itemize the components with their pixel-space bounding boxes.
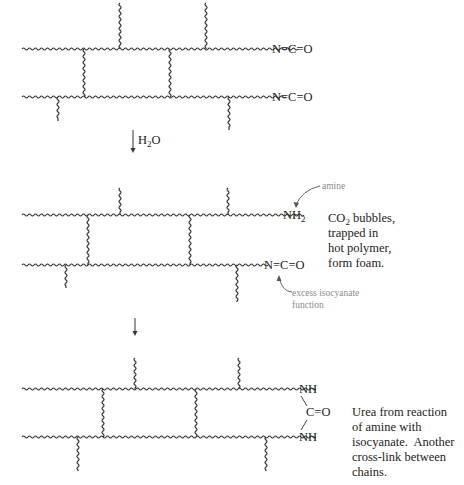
isocyanate-group: N=C=O [272,90,313,104]
note-line: of amine with [352,420,422,434]
panel-2-polymer-network: NH2 N=C=O amine excess isocyanate functi… [22,181,395,310]
polyurethane-foam-diagram: N=C=O N=C=O H2O NH2 N=C=O amine excess i… [0,0,464,485]
note-line: Urea from reaction [352,405,448,419]
chain-branch [65,265,67,288]
reaction-arrow-water: H2O [131,130,161,153]
chain-branch [77,437,79,471]
cross-link [169,49,171,97]
arrowhead-icon [133,331,138,336]
chain-branch [265,437,267,471]
arrowhead-icon [131,148,136,153]
polymer-chain [22,48,298,50]
chain-branch [119,3,121,49]
reagent-label: H2O [138,133,161,149]
note-line: hot polymer, [328,241,391,255]
amine-label: amine [322,181,345,191]
urea-note: Urea from reaction of amine with isocyan… [352,405,455,479]
chain-branch [227,188,229,215]
carbonyl-group: C=O [306,405,330,419]
chain-branch [134,358,136,389]
polymer-chain [22,96,286,98]
chain-branch [57,97,59,121]
note-line: form foam. [328,256,384,270]
polymer-chain [22,214,304,216]
note-line: CO2 bubbles, [328,211,395,227]
amine-group: NH2 [283,208,306,224]
cross-link [189,215,191,265]
chain-branch [236,265,238,302]
amine-pointer-arrow-icon [296,186,320,205]
nh-group: NH [299,382,317,396]
chain-branch [238,358,240,389]
isocyanate-group: N=C=O [272,42,313,56]
chain-branch [205,3,207,49]
chain-branch [228,97,230,130]
note-line: chains. [352,465,387,479]
polymer-chain [22,264,268,266]
cross-link [102,389,104,437]
chain-branch [119,188,121,215]
polymer-chain [22,388,316,390]
reaction-arrow [133,318,138,336]
isocyanate-group: N=C=O [264,258,305,272]
note-line: isocyanate. Another [352,435,455,449]
polymer-chain [22,436,316,438]
panel-1-polymer-network: N=C=O N=C=O [22,3,313,130]
isocyanate-label-line1: excess isocyanate [292,288,359,298]
co2-foam-note: CO2 bubbles, trapped in hot polymer, for… [328,211,395,270]
note-line: cross-link between [352,450,447,464]
note-line: trapped in [328,226,379,240]
cross-link [83,49,85,97]
cross-link [87,215,89,265]
urea-linkage: NH C=O NH [299,382,330,444]
panel-3-polymer-network: NH C=O NH Urea from reaction of amine wi… [22,358,455,479]
isocyanate-label-line2: function [292,300,324,310]
bond-line [301,420,307,430]
cross-link [195,389,197,437]
arrowhead-icon [277,275,282,281]
nh-group: NH [299,430,317,444]
